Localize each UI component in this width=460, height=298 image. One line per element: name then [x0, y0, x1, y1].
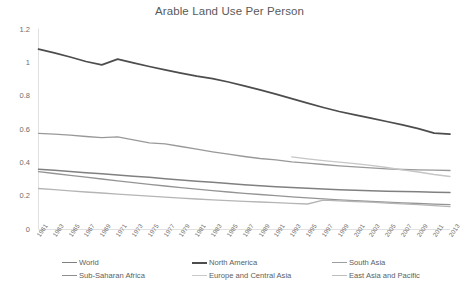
y-tick-label: 1: [8, 58, 30, 67]
y-tick-label: 0.4: [8, 158, 30, 167]
legend-item[interactable]: Sub-Saharan Africa: [62, 271, 145, 280]
y-tick-label: 0.6: [8, 125, 30, 134]
legend-item[interactable]: World: [62, 258, 99, 267]
legend-label: Europe and Central Asia: [209, 271, 291, 280]
legend-item[interactable]: East Asia and Pacific: [332, 271, 420, 280]
legend-item[interactable]: Europe and Central Asia: [192, 271, 291, 280]
legend-row: Sub-Saharan AfricaEurope and Central Asi…: [44, 271, 444, 284]
legend-label: World: [79, 258, 99, 267]
legend-line-swatch: [192, 262, 207, 264]
legend-line-swatch: [332, 275, 347, 276]
legend-line-swatch: [62, 275, 77, 276]
legend-row: WorldNorth AmericaSouth Asia: [44, 258, 444, 271]
axis-lines: [39, 29, 451, 230]
chart-legend: WorldNorth AmericaSouth AsiaSub-Saharan …: [44, 258, 444, 290]
legend-line-swatch: [62, 262, 77, 263]
series-line: Europe and Central Asia: [292, 157, 450, 177]
legend-label: Sub-Saharan Africa: [79, 271, 145, 280]
series-line: Sub-Saharan Africa: [39, 172, 451, 205]
series-line: World: [39, 169, 451, 192]
legend-item[interactable]: North America: [192, 258, 257, 267]
y-tick-label: 0: [8, 225, 30, 234]
y-tick-label: 1.2: [8, 25, 30, 34]
legend-label: East Asia and Pacific: [349, 271, 420, 280]
series-line: South Asia: [39, 133, 451, 170]
legend-label: South Asia: [349, 258, 385, 267]
y-tick-label: 0.2: [8, 191, 30, 200]
legend-line-swatch: [332, 262, 347, 263]
y-tick-label: 0.8: [8, 91, 30, 100]
legend-label: North America: [209, 258, 257, 267]
series-lines: WorldNorth AmericaSouth AsiaSub-Saharan …: [39, 49, 451, 207]
legend-item[interactable]: South Asia: [332, 258, 385, 267]
series-line: North America: [39, 49, 451, 134]
legend-line-swatch: [192, 275, 207, 276]
